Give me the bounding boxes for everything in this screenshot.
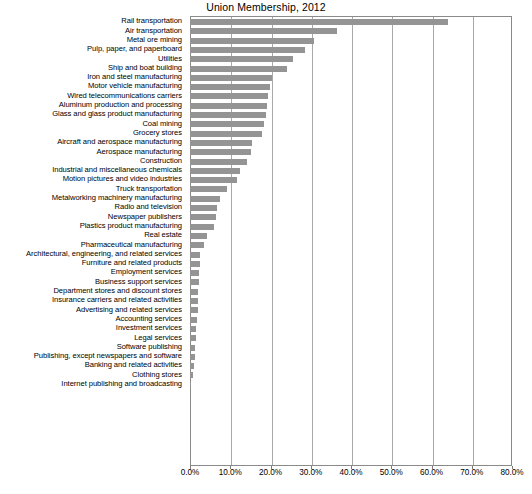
category-label: Grocery stores [0,128,182,137]
bar [190,112,266,118]
bar [190,252,200,258]
union-membership-bar-chart: Union Membership, 2012 Rail transportati… [0,0,532,494]
category-label: Coal mining [0,119,182,128]
x-tick-mark [472,466,473,469]
x-tick-mark [271,466,272,469]
category-labels: Rail transportationAir transportationMet… [0,16,186,466]
x-tick-label: 10.0% [219,468,242,477]
bar [190,159,247,165]
bar [190,335,196,341]
category-label: Truck transportation [0,184,182,193]
category-label: Accounting services [0,314,182,323]
bar [190,205,217,211]
category-label: Motion pictures and video industries [0,174,182,183]
category-label: Newspaper publishers [0,212,182,221]
chart-title: Union Membership, 2012 [0,1,532,13]
bars-layer [190,16,512,466]
bar [190,28,337,34]
x-tick-mark [391,466,392,469]
category-label: Investment services [0,323,182,332]
x-tick-label: 70.0% [460,468,483,477]
bar [190,242,204,248]
category-label: Furniture and related products [0,258,182,267]
category-label: Pharmaceutical manufacturing [0,240,182,249]
bar [190,298,198,304]
x-tick-mark [311,466,312,469]
bar [190,149,251,155]
bar [190,140,252,146]
bar [190,131,262,137]
category-label: Rail transportation [0,16,182,25]
category-label: Pulp, paper, and paperboard [0,44,182,53]
x-tick-label: 80.0% [500,468,523,477]
bar [190,382,191,388]
category-label: Software publishing [0,342,182,351]
bar [190,233,207,239]
bar [190,270,199,276]
category-label: Aerospace manufacturing [0,147,182,156]
category-label: Radio and television [0,202,182,211]
x-tick-mark [512,466,513,469]
category-label: Aluminum production and processing [0,100,182,109]
category-label: Legal services [0,333,182,342]
x-tick-label: 30.0% [299,468,322,477]
category-label: Clothing stores [0,370,182,379]
category-label: Motor vehicle manufacturing [0,81,182,90]
category-label: Construction [0,156,182,165]
category-label: Metalworking machinery manufacturing [0,193,182,202]
category-label: Industrial and miscellaneous chemicals [0,165,182,174]
category-label: Air transportation [0,26,182,35]
category-label: Wired telecommunications carriers [0,91,182,100]
category-label: Publishing, except newspapers and softwa… [0,351,182,360]
x-tick-label: 40.0% [339,468,362,477]
category-label: Banking and related activities [0,360,182,369]
category-label: Ship and boat building [0,63,182,72]
x-tick-label: 0.0% [181,468,200,477]
bar [190,38,314,44]
bar [190,326,196,332]
bar [190,66,287,72]
category-label: Business support services [0,277,182,286]
category-label: Real estate [0,230,182,239]
category-label: Plastics product manufacturing [0,221,182,230]
category-label: Internet publishing and broadcasting [0,379,182,388]
bar [190,307,198,313]
category-label: Glass and glass product manufacturing [0,109,182,118]
x-tick-label: 50.0% [380,468,403,477]
bar [190,345,195,351]
category-label: Utilities [0,54,182,63]
bar [190,103,267,109]
category-label: Employment services [0,267,182,276]
bar [190,214,216,220]
bar [190,56,293,62]
bar [190,261,200,267]
bar [190,317,197,323]
bar [190,93,268,99]
category-label: Iron and steel manufacturing [0,72,182,81]
x-tick-mark [351,466,352,469]
x-tick-label: 20.0% [259,468,282,477]
bar [190,84,270,90]
bar [190,177,237,183]
category-label: Advertising and related services [0,305,182,314]
category-label: Department stores and discount stores [0,286,182,295]
category-label: Insurance carriers and related activitie… [0,295,182,304]
category-label: Aircraft and aerospace manufacturing [0,137,182,146]
bar [190,168,240,174]
category-label: Architectural, engineering, and related … [0,249,182,258]
bar [190,354,195,360]
x-tick-mark [230,466,231,469]
bar [190,279,199,285]
x-tick-mark [190,466,191,469]
x-axis-tick-labels: 0.0%10.0%20.0%30.0%40.0%50.0%60.0%70.0%8… [0,468,532,482]
bar [190,372,193,378]
bar [190,289,198,295]
bar [190,186,227,192]
bar [190,196,220,202]
bar [190,121,264,127]
x-tick-mark [432,466,433,469]
bar [190,363,194,369]
bar [190,224,214,230]
category-label: Metal ore mining [0,35,182,44]
bar [190,75,272,81]
